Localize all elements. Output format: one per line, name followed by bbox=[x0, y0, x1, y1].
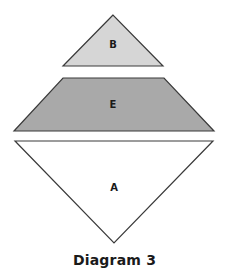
shape-e-group: E bbox=[14, 78, 214, 131]
diagram-caption: Diagram 3 bbox=[0, 252, 229, 268]
shape-a-label: A bbox=[110, 182, 118, 193]
shape-e-label: E bbox=[110, 99, 117, 110]
diagram-canvas: B E A bbox=[0, 0, 229, 276]
shape-b-label: B bbox=[109, 39, 117, 50]
shape-b-group: B bbox=[63, 15, 163, 66]
shape-a-group: A bbox=[15, 141, 213, 243]
